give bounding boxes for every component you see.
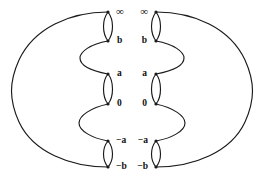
left-branch-point-minus-a	[106, 139, 109, 142]
label-minus-b-right: −b	[137, 162, 148, 172]
label-zero-left: 0	[117, 99, 122, 109]
right-branch-point-infinity	[154, 10, 157, 13]
right-branch-cut-middle	[152, 74, 161, 104]
label-b-right: b	[142, 36, 147, 46]
right-sheet-inner-arc-upper	[156, 41, 184, 74]
figure-canvas	[0, 0, 264, 177]
label-a-right: a	[142, 69, 147, 79]
right-sheet-outer-arc	[156, 12, 253, 167]
right-branch-point-minus-b	[154, 165, 157, 168]
left-branch-cut-middle	[104, 74, 113, 104]
right-branch-point-zero	[154, 102, 157, 105]
label-zero-right: 0	[142, 99, 147, 109]
label-infinity-left: ∞	[116, 6, 124, 17]
right-branch-point-minus-a	[154, 139, 157, 142]
right-sheet-inner-arc-lower	[156, 104, 185, 141]
right-branch-point-b	[154, 39, 157, 42]
right-branch-cut-top	[152, 12, 161, 41]
label-minus-b-left: −b	[116, 162, 127, 172]
left-branch-point-zero	[106, 102, 109, 105]
left-sheet-inner-arc-upper	[80, 41, 108, 74]
left-branch-point-minus-b	[106, 165, 109, 168]
label-infinity-right: ∞	[140, 6, 148, 17]
left-branch-cut-bottom	[104, 141, 113, 167]
label-a-left: a	[117, 69, 122, 79]
label-minus-a-left: −a	[116, 136, 126, 146]
left-sheet-outer-arc	[12, 12, 109, 167]
branch-cut-figure: ∞ b a 0 −a −b ∞ b a 0 −a −b	[0, 0, 264, 177]
left-branch-point-a	[106, 72, 109, 75]
label-minus-a-right: −a	[138, 136, 148, 146]
left-branch-cut-top	[104, 12, 113, 41]
label-b-left: b	[117, 36, 122, 46]
left-branch-point-infinity	[106, 10, 109, 13]
right-branch-point-a	[154, 72, 157, 75]
right-branch-cut-bottom	[152, 141, 161, 167]
left-branch-point-b	[106, 39, 109, 42]
left-sheet-inner-arc-lower	[79, 104, 108, 141]
